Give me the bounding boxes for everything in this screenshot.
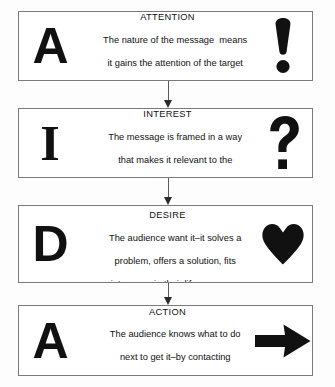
stage-heading-interest: INTEREST — [83, 108, 252, 120]
stage-line-1: The message is framed in a way — [108, 132, 242, 142]
right-arrow-icon — [254, 324, 312, 358]
stage-letter-d-desire: D — [19, 219, 81, 269]
stage-text-desire: DESIRE The audience want it–it solves a … — [81, 205, 254, 283]
stage-line-2: that makes it relevant to the — [118, 155, 232, 165]
arrowhead-down-icon — [164, 197, 172, 205]
stage-letter-a-action: A — [19, 316, 81, 366]
stage-text-action: ACTION The audience knows what to do nex… — [81, 305, 254, 376]
stage-line-2: problem, offers a solution, fits — [115, 256, 236, 266]
stage-letter-i-interest: I — [19, 118, 81, 168]
stage-heading-action: ACTION — [83, 306, 252, 318]
aida-flow-diagram: A ATTENTION The nature of the message me… — [0, 0, 335, 387]
exclamation-mark-icon — [254, 18, 312, 74]
stage-line-2: it gains the attention of the target — [108, 58, 243, 68]
connector-line — [168, 178, 169, 197]
stage-heading-desire: DESIRE — [83, 209, 252, 221]
stage-box-interest: I INTEREST The message is framed in a wa… — [18, 108, 313, 178]
stage-box-action: A ACTION The audience knows what to do n… — [18, 305, 313, 376]
arrowhead-down-icon — [164, 100, 172, 108]
stage-box-attention: A ATTENTION The nature of the message me… — [18, 11, 313, 81]
heart-icon — [254, 223, 312, 265]
connector-line — [168, 81, 169, 100]
stage-line-1: The audience want it–it solves a — [109, 233, 241, 243]
arrowhead-down-icon — [164, 297, 172, 305]
stage-line-3: into a gap in their life resources — [111, 279, 240, 283]
stage-line-2: next to get it–by contacting — [120, 352, 231, 362]
stage-box-desire: D DESIRE The audience want it–it solves … — [18, 205, 313, 283]
stage-line-1: The nature of the message means — [103, 35, 247, 45]
connector-attention-to-interest — [164, 81, 173, 108]
connector-line — [168, 283, 169, 298]
connector-interest-to-desire — [164, 178, 173, 205]
stage-line-1: The audience knows what to do — [110, 329, 241, 339]
stage-line-3: the advertiser/going to a shop, etc. — [104, 375, 247, 376]
stage-text-interest: INTEREST The message is framed in a way … — [81, 108, 254, 178]
question-mark-icon — [254, 116, 312, 170]
connector-desire-to-action — [164, 283, 173, 305]
stage-letter-a-attention: A — [19, 21, 81, 71]
stage-heading-attention: ATTENTION — [83, 11, 252, 23]
stage-text-attention: ATTENTION The nature of the message mean… — [81, 11, 254, 81]
